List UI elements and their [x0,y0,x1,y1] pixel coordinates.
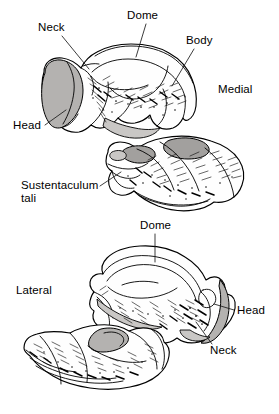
label-lateral-orientation: Lateral [16,284,52,297]
label-lateral-head: Head [237,304,265,317]
label-medial-head: Head [13,119,41,132]
label-lateral-dome: Dome [140,219,171,232]
medial-talus [42,44,197,138]
label-lateral-neck: Neck [210,344,237,357]
anatomical-figure: Neck Dome Body Medial Head Sustentaculum… [0,0,279,414]
label-medial-body: Body [186,34,213,47]
label-medial-dome: Dome [127,9,158,22]
label-sustentaculum-tali-line1: Sustentaculum [21,179,98,192]
bone-illustration-svg [0,0,279,414]
label-medial-orientation: Medial [218,83,252,96]
label-medial-neck: Neck [38,21,65,34]
medial-calcaneus-middle-facet [122,146,155,163]
label-sustentaculum-tali-line2: tali [21,192,36,205]
lateral-calcaneus [24,325,169,390]
medial-calcaneus-anterior-facet [110,151,127,161]
medial-calcaneus [106,136,244,210]
